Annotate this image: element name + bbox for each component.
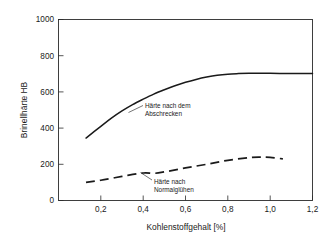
- y-tick-label-800: 800: [40, 52, 54, 61]
- chart-container: 0 200 400 600 800 1000 Brinellhärte HB 0…: [0, 0, 332, 243]
- y-tick-label-0: 0: [49, 196, 54, 205]
- y-axis-title: Brinellhärte HB: [19, 81, 29, 138]
- x-tick-label-0-6: 0,6: [180, 205, 192, 214]
- hardness-vs-carbon-chart: 0 200 400 600 800 1000 Brinellhärte HB 0…: [0, 0, 332, 243]
- annotation-normalized-line2: Normalglühen: [154, 186, 194, 194]
- x-tick-label-0-2: 0,2: [95, 205, 107, 214]
- chart-background: [0, 0, 332, 243]
- x-tick-label-1-2: 1,2: [307, 205, 319, 214]
- annotation-quenched-line1: Härte nach dem: [145, 102, 190, 109]
- y-tick-label-1000: 1000: [36, 15, 55, 24]
- x-axis-title: Kohlenstoffgehalt [%]: [147, 222, 226, 232]
- x-tick-label-1-0: 1,0: [265, 205, 277, 214]
- y-tick-label-600: 600: [40, 88, 54, 97]
- y-tick-label-200: 200: [40, 160, 54, 169]
- y-tick-label-400: 400: [40, 124, 54, 133]
- x-tick-label-0-4: 0,4: [138, 205, 150, 214]
- x-tick-label-0-8: 0,8: [222, 205, 234, 214]
- annotation-quenched-line2: Abschrecken: [145, 110, 182, 117]
- annotation-normalized-line1: Härte nach: [154, 178, 186, 185]
